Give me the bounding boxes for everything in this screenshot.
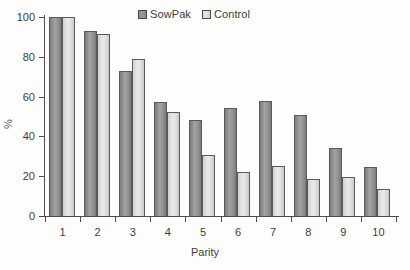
plot-area: [45, 17, 396, 216]
bar-sowpak-parity-9: [329, 148, 342, 216]
x-axis-title: Parity: [0, 246, 410, 258]
bar-control-parity-2: [97, 34, 110, 216]
x-tick-mark: [361, 217, 362, 222]
bar-sowpak-parity-3: [119, 71, 132, 216]
x-tick-mark: [221, 217, 222, 222]
x-tick-label-1: 1: [59, 226, 65, 238]
x-tick-label-9: 9: [340, 226, 346, 238]
chart-figure: SowPak Control % 020406080100 1234567891…: [0, 0, 410, 270]
x-tick-label-4: 4: [165, 226, 171, 238]
x-tick-mark: [256, 217, 257, 222]
x-tick-mark: [80, 217, 81, 222]
bar-control-parity-4: [167, 112, 180, 216]
x-tick-mark: [45, 217, 46, 222]
bar-control-parity-6: [237, 172, 250, 216]
x-tick-mark: [396, 217, 397, 222]
bar-control-parity-5: [202, 155, 215, 216]
y-tick-label: 40: [0, 130, 35, 142]
x-tick-mark: [326, 217, 327, 222]
x-tick-mark: [150, 217, 151, 222]
bar-sowpak-parity-5: [189, 120, 202, 217]
bar-control-parity-10: [377, 189, 390, 216]
bar-sowpak-parity-10: [364, 167, 377, 216]
bar-control-parity-7: [272, 166, 285, 216]
bar-sowpak-parity-7: [259, 101, 272, 216]
y-tick-label: 80: [0, 51, 35, 63]
x-axis-line: [44, 216, 399, 217]
y-axis-title: %: [2, 119, 14, 129]
y-tick-label: 20: [0, 170, 35, 182]
x-tick-label-8: 8: [305, 226, 311, 238]
y-tick-label: 100: [0, 11, 35, 23]
x-tick-mark: [291, 217, 292, 222]
x-tick-mark: [115, 217, 116, 222]
bar-sowpak-parity-6: [224, 108, 237, 216]
bar-sowpak-parity-1: [49, 17, 62, 216]
y-tick-label: 0: [0, 210, 35, 222]
bar-control-parity-3: [132, 59, 145, 216]
x-tick-label-6: 6: [235, 226, 241, 238]
x-tick-label-2: 2: [95, 226, 101, 238]
bar-control-parity-1: [62, 17, 75, 216]
bar-control-parity-8: [307, 179, 320, 216]
x-tick-label-7: 7: [270, 226, 276, 238]
bar-sowpak-parity-4: [154, 102, 167, 216]
bar-control-parity-9: [342, 177, 355, 216]
y-tick-label: 60: [0, 91, 35, 103]
x-tick-label-5: 5: [200, 226, 206, 238]
x-tick-mark: [185, 217, 186, 222]
bar-sowpak-parity-2: [84, 31, 97, 216]
x-tick-label-3: 3: [130, 226, 136, 238]
x-tick-label-10: 10: [372, 226, 384, 238]
bar-sowpak-parity-8: [294, 115, 307, 216]
